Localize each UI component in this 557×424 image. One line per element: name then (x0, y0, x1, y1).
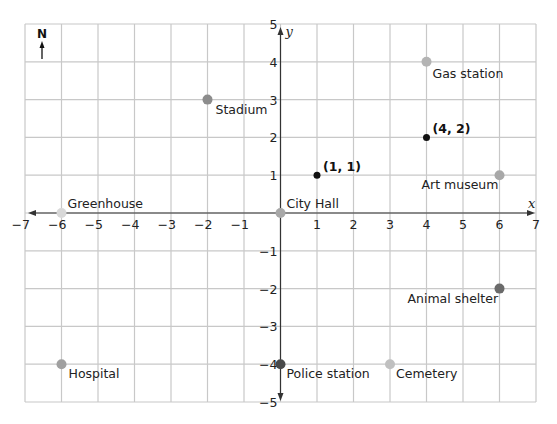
map-point: Stadium (203, 95, 268, 117)
point-label: Hospital (69, 366, 120, 381)
x-tick-label: 5 (459, 217, 467, 232)
y-axis-label: y (285, 24, 294, 39)
y-tick-label: 3 (270, 93, 278, 108)
y-axis-arrow-up-icon (278, 27, 284, 35)
y-tick-label: −3 (259, 319, 277, 334)
point-marker-icon (385, 359, 395, 369)
map-point: City Hall (276, 196, 339, 218)
point-marker-icon (422, 57, 432, 67)
point-label: Cemetery (396, 366, 458, 381)
x-tick-label: −3 (158, 217, 176, 232)
y-tick-label: −2 (259, 282, 277, 297)
x-tick-label: 3 (386, 217, 394, 232)
point-label: Animal shelter (408, 291, 499, 306)
point-label: City Hall (287, 196, 339, 211)
point-marker-icon (57, 208, 67, 218)
point-label: (4, 2) (433, 121, 471, 136)
x-tick-label: 7 (532, 217, 540, 232)
map-point: Cemetery (385, 359, 458, 381)
y-axis-arrow-down-icon (278, 393, 284, 401)
y-tick-label: −5 (259, 395, 277, 410)
x-axis-arrow-left-icon (28, 210, 36, 216)
x-tick-label: 1 (313, 217, 321, 232)
x-tick-label: 2 (350, 217, 358, 232)
point-label: Stadium (216, 102, 268, 117)
point-label: Police station (287, 366, 370, 381)
y-tick-label: −1 (259, 244, 277, 259)
x-tick-label: −2 (194, 217, 212, 232)
x-tick-label: −7 (12, 217, 30, 232)
point-marker-icon (423, 134, 430, 141)
point-marker-icon (57, 359, 67, 369)
y-tick-label: 2 (270, 130, 278, 145)
x-tick-label: 6 (496, 217, 504, 232)
y-tick-label: 1 (270, 168, 278, 183)
map-point: Police station (276, 359, 370, 381)
point-label: Gas station (433, 66, 504, 81)
map-point: Animal shelter (408, 284, 505, 306)
y-tick-label: 4 (270, 55, 278, 70)
point-marker-icon (276, 208, 286, 218)
x-axis-label: x (528, 196, 536, 211)
north-arrow-head-icon (40, 41, 45, 48)
x-tick-label: −1 (231, 217, 249, 232)
point-marker-icon (314, 172, 321, 179)
x-tick-label: −6 (48, 217, 66, 232)
point-label: (1, 1) (323, 159, 361, 174)
north-label: N (37, 27, 47, 41)
point-marker-icon (276, 359, 286, 369)
point-marker-icon (203, 95, 213, 105)
map-point: Hospital (57, 359, 120, 381)
point-label: Greenhouse (68, 196, 144, 211)
coordinate-map-chart: xy −7−6−5−4−3−2−11234567−5−4−3−2−112345 … (0, 0, 557, 424)
x-tick-label: −4 (121, 217, 139, 232)
x-tick-label: 4 (423, 217, 431, 232)
x-tick-label: −5 (85, 217, 103, 232)
y-tick-label: −4 (259, 357, 277, 372)
y-tick-label: 5 (270, 17, 278, 32)
north-compass-icon: N (37, 27, 47, 59)
point-label: Art museum (422, 177, 499, 192)
map-point: Greenhouse (57, 196, 144, 218)
